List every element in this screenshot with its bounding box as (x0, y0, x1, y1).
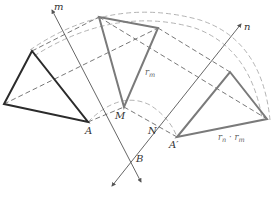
dashed-topleft-to-right (99, 17, 267, 119)
label-composite-rn-rm: rn · rm (218, 132, 245, 144)
mirror-line-n (112, 24, 241, 186)
dashed-top-to-top (32, 17, 99, 51)
label-B: B (135, 153, 143, 164)
label-A: A (84, 125, 92, 136)
reflected-triangle-n (177, 72, 267, 137)
label-m: m (54, 1, 63, 12)
label-A-prime: A′ (168, 139, 179, 150)
outer-arc (30, 12, 270, 120)
label-r-m: rm (145, 67, 155, 79)
reflection-composition-diagram: m n A M N B A′ rm rn · rm (0, 0, 272, 197)
original-triangle (4, 51, 88, 122)
label-N: N (147, 125, 158, 136)
label-n: n (244, 21, 250, 32)
dashed-connectors (4, 17, 267, 137)
label-M: M (114, 110, 126, 121)
dashed-topright-to-top (158, 28, 230, 72)
reflected-triangle-m (99, 17, 158, 107)
